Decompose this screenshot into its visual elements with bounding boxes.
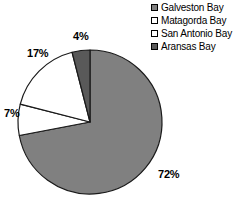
slice-label-san-antonio-bay: 17% bbox=[27, 47, 48, 59]
legend-swatch-icon bbox=[151, 43, 158, 50]
legend-swatch-icon bbox=[151, 4, 158, 11]
legend-item-label: Galveston Bay bbox=[161, 2, 223, 13]
legend: Galveston Bay Matagorda Bay San Antonio … bbox=[151, 1, 245, 53]
slice-label-galveston-bay: 72% bbox=[158, 168, 179, 180]
slice-label-aransas-bay: 4% bbox=[73, 30, 89, 42]
legend-swatch-icon bbox=[151, 17, 158, 24]
pie-chart: 4% 17% 7% 72% Galveston Bay Matagorda Ba… bbox=[0, 0, 245, 209]
legend-item-san-antonio-bay[interactable]: San Antonio Bay bbox=[151, 27, 245, 40]
legend-item-label: San Antonio Bay bbox=[161, 28, 232, 39]
legend-item-aransas-bay[interactable]: Aransas Bay bbox=[151, 40, 245, 53]
pie-slice-group bbox=[18, 50, 162, 194]
slice-label-matagorda-bay: 7% bbox=[4, 107, 20, 119]
legend-item-galveston-bay[interactable]: Galveston Bay bbox=[151, 1, 245, 14]
legend-item-matagorda-bay[interactable]: Matagorda Bay bbox=[151, 14, 245, 27]
legend-swatch-icon bbox=[151, 30, 158, 37]
legend-item-label: Aransas Bay bbox=[161, 41, 216, 52]
legend-item-label: Matagorda Bay bbox=[161, 15, 226, 26]
